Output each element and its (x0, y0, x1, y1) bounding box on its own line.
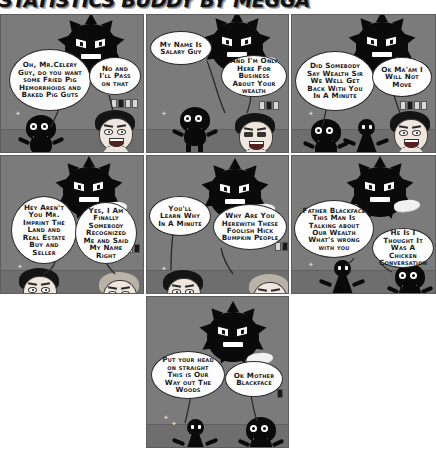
bubble-text: Put your head on straight This is Our Wa… (159, 356, 217, 393)
bubble-text: My Name Is Salary Guy (158, 41, 204, 56)
speech-bubble-7a: Put your head on straight This is Our Wa… (151, 351, 225, 399)
bubble-text: Did Somebody Say Wealth Sir We Well Get … (303, 62, 367, 99)
comic-panel-2: ✦ My Name Is Salary Guy And I'm Only Her… (146, 14, 289, 153)
bubble-text: Father Blackface This Man Is Talking abo… (302, 207, 366, 252)
speech-bubble-6a: Father Blackface This Man Is Talking abo… (294, 200, 374, 258)
speech-bubble-3b: Ok Ma'am I Will Not Move (372, 57, 432, 97)
speech-bubble-2b: And I'm Only Here For Business About You… (221, 55, 287, 97)
speech-bubble-1a: Oh, Mr.Celery Guy, do you want some Frie… (9, 49, 91, 111)
bubble-text: You'll Learn Why In A Minute (157, 205, 203, 227)
bubble-text: Ok Mother Blackface (233, 372, 275, 387)
comic-panel-6: ✦ Father Blackface This Man Is Talking a… (291, 155, 436, 294)
comic-panel-3: ✦ Did Someb (291, 14, 436, 153)
bubble-text: Oh, Mr.Celery Guy, do you want some Frie… (17, 61, 83, 98)
speech-bubble-7b: Ok Mother Blackface (225, 361, 283, 397)
speech-bubble-6b: He Is I Thought It Was A Chicken Convers… (372, 228, 434, 268)
comic-panel-4: ✦ Hey Aren't You Mr. Imprint The Land an… (0, 155, 144, 294)
bubble-text: Why Are You Herewith These Foolish Hick … (221, 212, 279, 242)
bubble-text: Yes, I Am Finally Somebody Recognized Me… (83, 207, 129, 259)
bubble-text: And I'm Only Here For Business About You… (229, 57, 279, 94)
comic-title: STATISTICS BUDDY BY MEGGA (0, 0, 310, 11)
comic-panel-7: ✦ ✦ Put your head on straight This is Ou… (146, 296, 289, 448)
speech-bubble-4b: Yes, I Am Finally Somebody Recognized Me… (75, 202, 137, 264)
speech-bubble-4a: Hey Aren't You Mr. Imprint The Land and … (11, 196, 77, 264)
speech-bubble-1b: No and I'll Pass on that (89, 57, 141, 95)
comic-panel-5: ✦ You'll Learn Why In A Minute Why Are Y… (146, 155, 289, 294)
speech-bubble-3a: Did Somebody Say Wealth Sir We Well Get … (295, 51, 375, 111)
comic-title-bar: STATISTICS BUDDY BY MEGGA (0, 0, 436, 12)
speech-bubble-2a: My Name Is Salary Guy (150, 31, 212, 65)
speech-bubble-5b: Why Are You Herewith These Foolish Hick … (213, 204, 287, 250)
comic-strip: STATISTICS BUDDY BY MEGGA ✦ (0, 0, 436, 449)
comic-panel-1: ✦ Oh, Mr.Celery Guy, do you want some Fr… (0, 14, 144, 153)
bubble-text: He Is I Thought It Was A Chicken Convers… (379, 229, 427, 266)
bubble-text: Hey Aren't You Mr. Imprint The Land and … (19, 204, 69, 256)
bubble-text: No and I'll Pass on that (97, 65, 133, 87)
bubble-text: Ok Ma'am I Will Not Move (380, 66, 424, 88)
speech-bubble-5a: You'll Learn Why In A Minute (149, 196, 211, 236)
